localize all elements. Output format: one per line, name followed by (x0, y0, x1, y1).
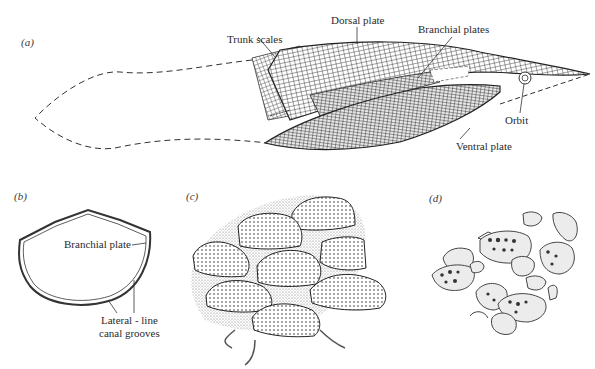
label-trunk-scales: Trunk scales (227, 33, 283, 45)
label-lateral-line: Lateral - line (101, 314, 158, 326)
panel-c-artwork (191, 195, 386, 365)
panel-d-artwork (432, 212, 577, 335)
panel-d-label: (d) (429, 192, 442, 204)
label-ventral-plate: Ventral plate (456, 140, 512, 152)
label-branchial-plates: Branchial plates (418, 23, 489, 35)
figure-artwork (0, 0, 595, 369)
panel-c-label: (c) (186, 190, 198, 202)
panel-a-label: (a) (21, 36, 34, 48)
panel-b-artwork (19, 210, 150, 313)
figure: (a) (b) (c) (d) Trunk scales Dorsal plat… (0, 0, 595, 369)
panel-a-artwork (35, 27, 590, 150)
label-canal-grooves: canal grooves (99, 327, 160, 339)
label-orbit: Orbit (505, 114, 528, 126)
panel-b-label: (b) (14, 190, 27, 202)
label-branchial-plate: Branchial plate (64, 238, 131, 250)
label-dorsal-plate: Dorsal plate (331, 14, 384, 26)
